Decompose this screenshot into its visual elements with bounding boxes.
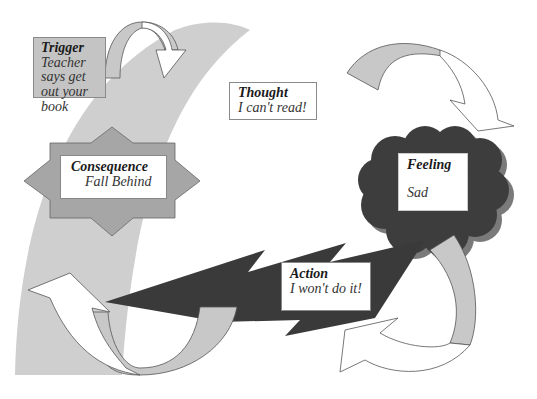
thought-to-feeling-arrow-body bbox=[347, 43, 442, 90]
trigger-title: Trigger bbox=[41, 41, 105, 56]
thought-box: Thought I can't read! bbox=[229, 82, 317, 120]
feeling-text: Sad bbox=[407, 186, 467, 201]
consequence-text: Fall Behind bbox=[71, 175, 166, 190]
action-title: Action bbox=[290, 267, 370, 282]
trigger-box: Trigger Teacher says get out your book bbox=[33, 37, 106, 98]
feeling-box: Feeling Sad bbox=[398, 153, 468, 211]
thought-to-feeling-arrow-head bbox=[440, 50, 514, 131]
consequence-title: Consequence bbox=[71, 160, 166, 175]
action-text: I won't do it! bbox=[290, 282, 370, 297]
feeling-title: Feeling bbox=[407, 158, 467, 173]
consequence-box: Consequence Fall Behind bbox=[60, 155, 167, 199]
action-box: Action I won't do it! bbox=[281, 262, 371, 311]
thought-title: Thought bbox=[238, 86, 316, 101]
cbt-cycle-diagram: Trigger Teacher says get out your book T… bbox=[0, 0, 537, 399]
thought-text: I can't read! bbox=[238, 101, 316, 116]
action-bolt bbox=[105, 240, 425, 336]
feeling-to-action-arrow-head bbox=[340, 318, 470, 372]
trigger-text: Teacher says get out your book bbox=[41, 56, 105, 115]
